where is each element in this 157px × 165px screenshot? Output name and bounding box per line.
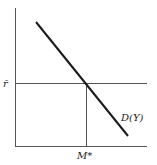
m-star-label: M*	[76, 150, 92, 161]
demand-diagram: r̄ M* D(Y)	[0, 0, 157, 165]
curve-label: D(Y)	[120, 112, 144, 123]
r-bar-label: r̄	[3, 78, 9, 89]
demand-curve	[36, 22, 128, 136]
